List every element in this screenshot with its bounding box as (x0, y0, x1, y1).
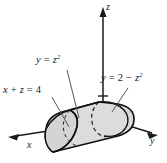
label-plane-value: 4 (36, 84, 41, 95)
label-curve-left-eq: = (44, 54, 50, 65)
label-curve-y-equals-2-minus-z-squared: y = 2 − z2 (101, 73, 143, 84)
axis-label-x: x (27, 140, 32, 150)
label-curve-left-var: y (36, 54, 41, 65)
axis-label-y: y (150, 136, 155, 146)
label-curve-y-equals-z-squared: y = z2 (36, 55, 60, 66)
label-plane-eq: = (27, 84, 33, 95)
axis-x-arrowhead (8, 134, 19, 141)
label-plane-var2: z (20, 84, 24, 95)
label-curve-right-exp: 2 (139, 71, 142, 78)
label-curve-right-two: 2 (118, 72, 123, 83)
label-curve-right-var: y (101, 72, 106, 83)
label-curve-right-eq: = (109, 72, 115, 83)
axis-label-z: z (106, 2, 110, 12)
axis-x-line (16, 131, 48, 136)
label-plane-x-plus-z-equals-4: x + z = 4 (3, 85, 41, 96)
label-plane-plus: + (11, 84, 17, 95)
label-curve-left-exp: 2 (57, 53, 60, 60)
label-curve-right-minus: − (126, 72, 132, 83)
figure-3d-solid-region: y = z2 x + z = 4 y = 2 − z2 z y x (0, 0, 167, 163)
label-plane-var1: x (3, 84, 8, 95)
